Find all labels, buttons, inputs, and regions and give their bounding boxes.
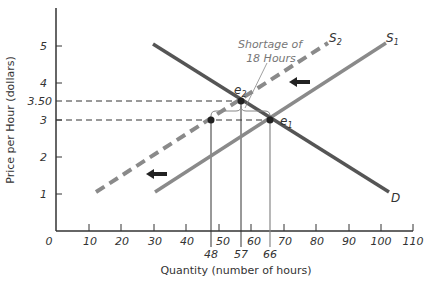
supply-demand-chart: 1 2 3 4 5 3.50 0 10 20 30 40 50 60 70 80… [0,0,430,285]
label-e2: e2 [234,83,246,99]
svg-text:4: 4 [40,77,47,90]
arrow-left-icon [289,77,310,87]
svg-text:0: 0 [46,235,53,248]
svg-text:48: 48 [204,248,218,261]
svg-text:5: 5 [40,40,47,53]
shortage-annotation-line2: 18 Hours [246,52,296,65]
x-axis-title: Quantity (number of hours) [160,264,311,277]
label-s2: S2 [329,31,342,47]
svg-text:110: 110 [403,235,424,248]
y-tick-labels: 1 2 3 4 5 3.50 [28,40,53,201]
svg-text:50: 50 [216,235,230,248]
label-s1: S1 [386,31,399,47]
svg-text:10: 10 [83,235,97,248]
svg-text:3.50: 3.50 [28,95,53,108]
y-axis-title: Price per Hour (dollars) [4,56,17,184]
svg-text:1: 1 [40,188,47,201]
svg-text:66: 66 [263,248,277,261]
svg-text:60: 60 [247,235,261,248]
svg-text:90: 90 [342,235,356,248]
point-e1 [267,117,274,124]
arrow-left-icon [146,169,167,179]
label-e1: e1 [280,114,292,130]
svg-text:2: 2 [40,151,47,164]
svg-text:40: 40 [180,235,194,248]
svg-text:20: 20 [115,235,129,248]
svg-text:30: 30 [148,235,162,248]
svg-text:3: 3 [40,114,47,127]
shortage-annotation-line1: Shortage of [238,38,304,51]
label-d: D [391,191,400,205]
point-48 [208,117,215,124]
svg-text:100: 100 [371,235,392,248]
x-ticks [89,224,413,231]
svg-text:70: 70 [278,235,292,248]
svg-text:57: 57 [234,248,248,261]
svg-text:80: 80 [310,235,324,248]
x-tick-labels: 0 10 20 30 40 50 60 70 80 90 100 110 48 … [46,235,424,261]
